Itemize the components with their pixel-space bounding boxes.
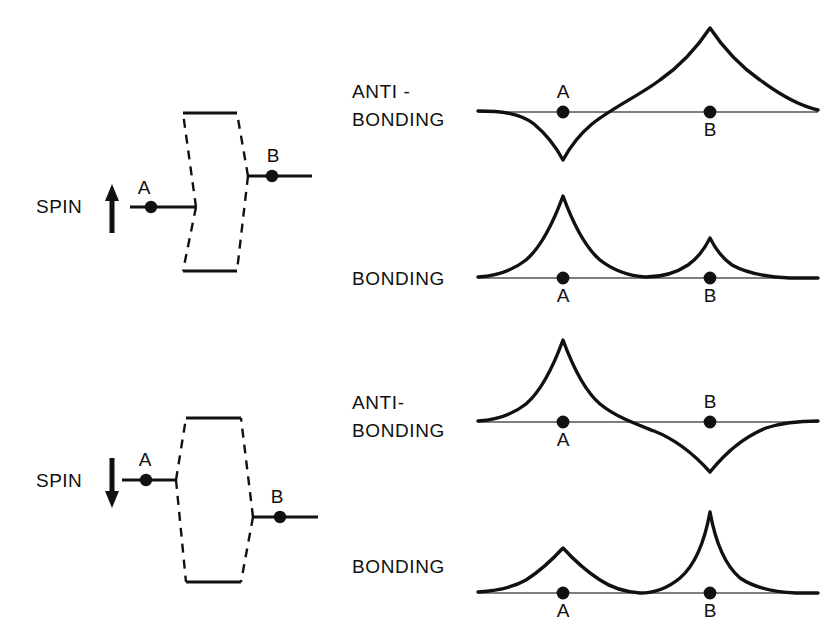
- panel2-site-A-marker: [557, 272, 570, 285]
- spin-up-level-A-label: A: [138, 177, 151, 198]
- panel4-site-B-marker: [704, 587, 717, 600]
- spin-up-bonding-caption-line1: BONDING: [352, 268, 445, 289]
- panel3-site-B-marker: [704, 416, 717, 429]
- spin-down-electron-B: [274, 511, 286, 523]
- spin-down-antibonding-caption-line1: ANTI-: [352, 392, 405, 413]
- panel4-site-A-marker: [557, 587, 570, 600]
- panel1-site-B-label: B: [704, 119, 717, 140]
- panel1-site-B-marker: [704, 106, 717, 119]
- panel3-site-A-marker: [557, 416, 570, 429]
- molecular-orbital-figure: SPIN A B: [0, 0, 829, 641]
- figure-canvas: SPIN A B: [0, 0, 829, 641]
- spin-down-antibonding-caption-line2: BONDING: [352, 420, 445, 441]
- spin-up-electron-B: [266, 170, 278, 182]
- panel4-site-A-label: A: [557, 600, 570, 621]
- panel1-site-A-label: A: [557, 81, 570, 102]
- spin-up-antibonding-caption-line1: ANTI -: [352, 81, 411, 102]
- spin-up-level-B-label: B: [267, 145, 280, 166]
- spin-down-bonding-caption: BONDING: [352, 556, 445, 577]
- spin-down-level-A-label: A: [139, 449, 152, 470]
- panel3-site-A-label: A: [557, 429, 570, 450]
- panel1-site-A-marker: [557, 106, 570, 119]
- spin-down-electron-A: [140, 474, 152, 486]
- spin-down-bonding-caption-line1: BONDING: [352, 556, 445, 577]
- spin-up-bonding-caption: BONDING: [352, 268, 445, 289]
- panel2-site-B-label: B: [704, 285, 717, 306]
- spin-up-label: SPIN: [36, 196, 82, 217]
- panel3-site-B-label: B: [704, 391, 717, 412]
- spin-down-level-B-label: B: [271, 486, 284, 507]
- spin-down-label: SPIN: [36, 470, 82, 491]
- figure-background: [0, 0, 829, 641]
- panel4-site-B-label: B: [704, 600, 717, 621]
- spin-up-electron-A: [145, 201, 157, 213]
- panel2-site-A-label: A: [557, 285, 570, 306]
- panel2-site-B-marker: [704, 272, 717, 285]
- spin-up-antibonding-caption-line2: BONDING: [352, 109, 445, 130]
